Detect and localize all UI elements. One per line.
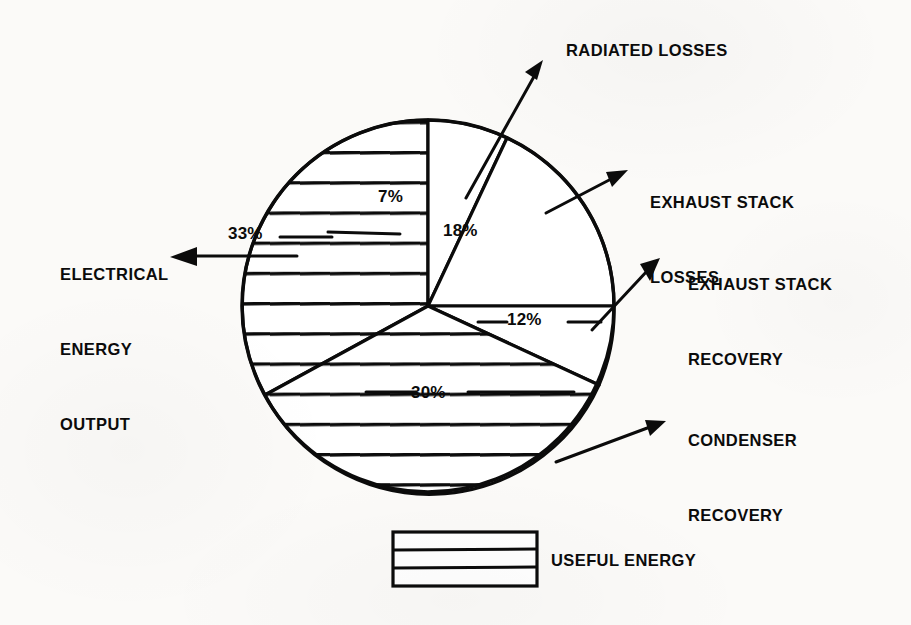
label-exhaust-stack-recovery-line2: RECOVERY	[688, 347, 832, 372]
label-radiated-losses: RADIATED LOSSES	[566, 38, 728, 63]
legend-label-useful-energy: USEFUL ENERGY	[551, 548, 696, 573]
percent-label-electrical-energy-output: 33%	[228, 224, 263, 244]
percent-label-condenser-recovery: 30%	[411, 383, 446, 403]
percent-label-exhaust-stack-recovery: 12%	[507, 310, 542, 330]
percent-label-exhaust-stack-losses: 18%	[443, 221, 478, 241]
label-electrical-energy-output-line2: ENERGY	[60, 337, 169, 362]
figure-canvas: RADIATED LOSSES EXHAUST STACK LOSSES EXH…	[0, 0, 911, 625]
percent-label-radiated-losses: 7%	[378, 187, 403, 207]
label-electrical-energy-output-line3: OUTPUT	[60, 412, 169, 437]
legend-swatch	[393, 532, 537, 586]
label-condenser-recovery-line2: RECOVERY	[688, 503, 797, 528]
label-condenser-recovery-line1: CONDENSER	[688, 428, 797, 453]
label-electrical-energy-output-line1: ELECTRICAL	[60, 262, 169, 287]
label-condenser-recovery: CONDENSER RECOVERY	[688, 378, 797, 578]
label-exhaust-stack-losses-line1: EXHAUST STACK	[650, 190, 794, 215]
label-exhaust-stack-recovery-line1: EXHAUST STACK	[688, 272, 832, 297]
label-electrical-energy-output: ELECTRICAL ENERGY OUTPUT	[60, 212, 169, 487]
